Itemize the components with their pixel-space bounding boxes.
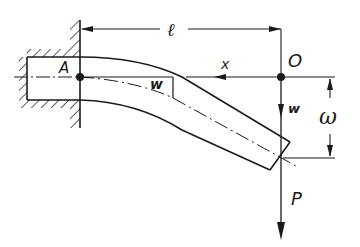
length-arrowhead-left — [81, 26, 93, 32]
local-deflection-marker: w — [150, 76, 173, 98]
length-arrowhead-right — [269, 26, 281, 32]
tip-deflection-dimension: ω — [283, 77, 337, 158]
centerline-deformed — [80, 77, 296, 166]
x-axis-label: x — [220, 56, 230, 72]
load-arrowhead — [277, 222, 285, 240]
clamped-wall-support — [19, 20, 80, 128]
point-A-label: A — [58, 59, 69, 77]
wall-hatch-lower — [19, 100, 80, 128]
origin-label: O — [288, 50, 302, 71]
wall-hatch — [27, 20, 80, 57]
local-deflection-label: w — [150, 76, 163, 92]
w-axis-label: w — [288, 101, 301, 116]
point-A-dot — [76, 73, 84, 81]
tip-arrowhead-bottom — [327, 145, 333, 157]
beam-bottom-edge — [27, 100, 270, 170]
tip-arrowhead-top — [327, 78, 333, 90]
beam-tip-end — [270, 142, 290, 170]
w-axis-arrowhead — [278, 104, 284, 118]
length-dimension: ℓ — [81, 19, 281, 77]
length-label: ℓ — [167, 19, 175, 40]
w-axis-arrow: w — [278, 77, 301, 235]
cantilever-beam-diagram: x w A ℓ O w ω P — [0, 0, 360, 247]
x-axis-arrowhead — [214, 74, 226, 80]
tip-deflection-label: ω — [319, 104, 337, 129]
load-label: P — [291, 188, 302, 209]
wall-hatch-left — [19, 57, 27, 100]
